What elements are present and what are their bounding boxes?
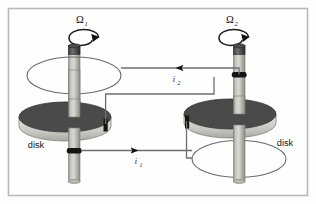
left-shaft-bottom-face bbox=[69, 180, 81, 184]
right-disk-top bbox=[184, 99, 276, 129]
left-shaft-contact-ring bbox=[67, 148, 82, 153]
right-shaft-top-face bbox=[234, 44, 246, 48]
omega-left-subscript: 1 bbox=[85, 20, 88, 27]
right-shaft-through-disk bbox=[234, 96, 246, 114]
current-lower-subscript: 1 bbox=[140, 162, 143, 168]
right-shaft-lower bbox=[234, 125, 246, 182]
left-shaft-top-face bbox=[69, 44, 81, 48]
omega-left-symbol: Ω bbox=[76, 14, 84, 25]
right-shaft-bottom-face bbox=[234, 180, 246, 184]
left-disk-label: disk bbox=[28, 140, 45, 150]
figure-container: Ω 1 disk Ω 2 bbox=[0, 0, 316, 204]
current-upper-subscript: 2 bbox=[178, 80, 181, 86]
left-shaft-lower bbox=[69, 128, 81, 182]
right-disk-label: disk bbox=[277, 138, 294, 148]
left-shaft-through-disk bbox=[69, 99, 81, 117]
left-disk-top bbox=[19, 102, 111, 132]
omega-right-symbol: Ω bbox=[226, 14, 234, 25]
diagram-svg: Ω 1 disk Ω 2 bbox=[0, 0, 316, 204]
